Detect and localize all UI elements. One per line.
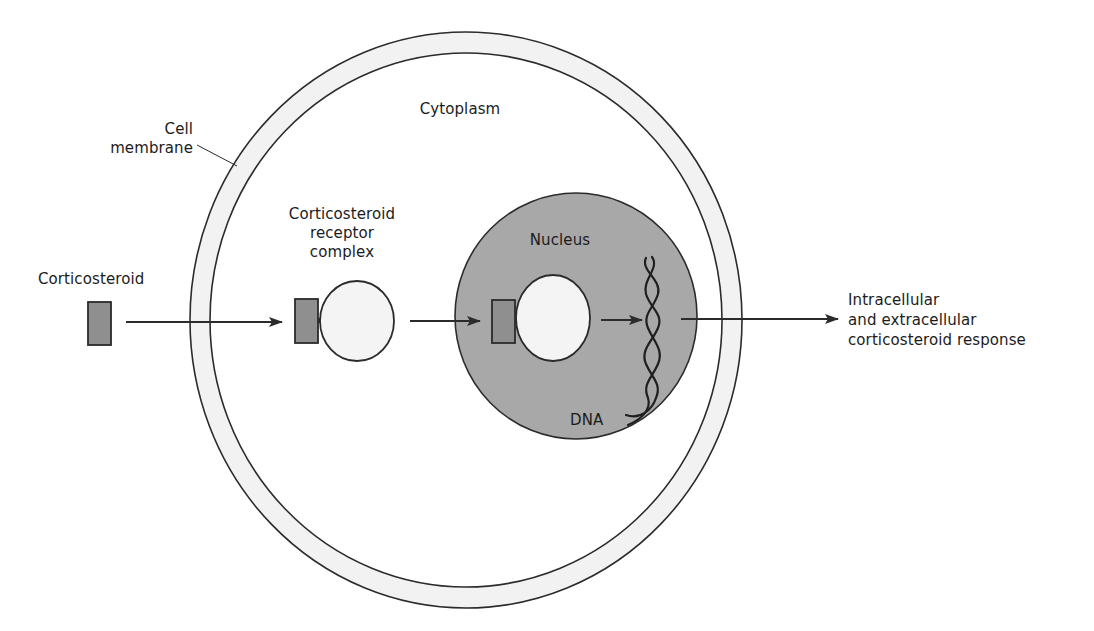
cell-membrane-label-line-1: Cell (100, 120, 193, 139)
diagram-canvas: Cell membrane Cytoplasm Corticosteroid C… (0, 0, 1094, 631)
receptor-complex-label: Corticosteroid receptor complex (277, 205, 407, 262)
corticosteroid-molecule (88, 302, 111, 345)
cell-membrane-leader-line (197, 145, 237, 166)
response-label-line-2: and extracellular (848, 310, 1026, 330)
response-label-line-3: corticosteroid response (848, 330, 1026, 350)
cell-membrane-label: Cell membrane (100, 120, 193, 158)
response-label-line-1: Intracellular (848, 290, 1026, 310)
nucleus-label: Nucleus (520, 231, 600, 250)
receptor-complex-label-line-2: receptor (277, 224, 407, 243)
receptor-complex-label-line-3: complex (277, 243, 407, 262)
corticosteroid-label: Corticosteroid (38, 270, 144, 289)
cell-membrane-label-line-2: membrane (100, 139, 193, 158)
dna-label: DNA (570, 411, 603, 430)
cytoplasm-label: Cytoplasm (405, 100, 515, 119)
receptor-complex-label-line-1: Corticosteroid (277, 205, 407, 224)
response-label: Intracellular and extracellular corticos… (848, 290, 1026, 350)
